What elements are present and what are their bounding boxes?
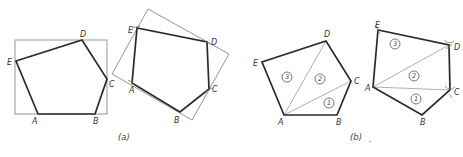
- vertex-label-a: A: [277, 118, 283, 127]
- diagonal-ad: [373, 45, 449, 87]
- vertex-label-e: E: [7, 58, 13, 67]
- vertex-label-a: A: [31, 117, 37, 126]
- diagram-canvas: A B C D E A B C D E (a) 3 2 1 A B C D E: [0, 0, 463, 157]
- pentagon-outline: [132, 28, 209, 112]
- vertex-label-b: B: [336, 118, 342, 127]
- vertex-label-b: B: [420, 118, 426, 127]
- triangle-label-1: 1: [327, 99, 331, 107]
- panel-b-left: 3 2 1 A B C D E: [253, 30, 360, 127]
- transfer-tick-marks: [128, 26, 212, 92]
- vertex-label-e: E: [253, 59, 259, 68]
- vertex-label-d: D: [454, 43, 460, 52]
- triangle-label-3: 3: [393, 40, 397, 48]
- vertex-label-c: C: [454, 88, 460, 97]
- vertex-label-d: D: [211, 38, 217, 47]
- vertex-label-d: D: [80, 30, 86, 39]
- caption-a: (a): [118, 132, 130, 142]
- vertex-label-c: C: [212, 85, 218, 94]
- compass-arc-marks: [375, 25, 455, 98]
- triangle-label-2: 2: [318, 75, 322, 83]
- vertex-label-b: B: [174, 116, 180, 125]
- triangle-label-1: 1: [414, 95, 418, 103]
- panel-b-right: 3 2 1 A B C D E: [364, 21, 460, 127]
- pentagon-outline: [16, 40, 107, 114]
- trailing-mark: .: [369, 134, 372, 144]
- diagonal-ac: [373, 87, 450, 90]
- vertex-label-a: A: [364, 84, 370, 93]
- panel-a-left: A B C D E: [7, 30, 115, 126]
- triangle-label-3: 3: [285, 73, 289, 81]
- vertex-label-c: C: [354, 77, 360, 86]
- vertex-label-d: D: [324, 30, 330, 39]
- enclosing-rectangle: [15, 40, 107, 114]
- triangle-label-2: 2: [412, 72, 416, 80]
- vertex-label-c: C: [109, 80, 115, 89]
- vertex-label-a: A: [128, 86, 134, 95]
- caption-b: (b): [350, 132, 362, 142]
- vertex-label-b: B: [93, 117, 99, 126]
- vertex-label-e: E: [375, 21, 381, 30]
- panel-a-right: A B C D E: [112, 9, 229, 125]
